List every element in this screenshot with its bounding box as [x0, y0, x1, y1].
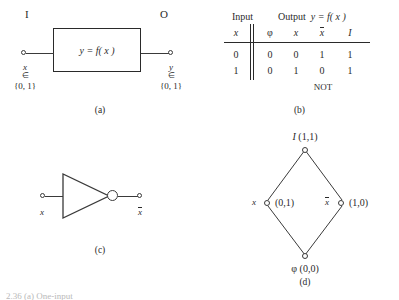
panel-a-input-domain: {0, 1} — [8, 81, 42, 91]
panel-b-group-header-output: Output y = f( x ) — [278, 12, 346, 22]
table-row-0-cell-1: 0 — [288, 50, 304, 60]
panel-c-output-label: x — [131, 207, 149, 217]
figure-bottom-caption-partial: 2.36 (a) One-input — [6, 292, 196, 300]
panel-d-caption: (d) — [275, 278, 335, 288]
panel-d-node-bottom — [302, 253, 308, 259]
panel-b-output-header-text: Output — [278, 11, 306, 22]
table-row-0-cell-0: 0 — [262, 50, 278, 60]
panel-c: x x (c) — [0, 140, 200, 300]
panel-d-node-top — [302, 147, 308, 153]
panel-a-output-member-symbol: ∈ — [154, 72, 188, 81]
panel-a-input-domain-label: x ∈ {0, 1} — [8, 62, 42, 91]
panel-a: I O y = f( x ) x ∈ {0, 1} y ∈ {0, 1} (a) — [0, 0, 200, 140]
panel-a-input-port-label: I — [25, 9, 29, 20]
panel-c-input-label: x — [33, 208, 51, 217]
panel-b-caption: (b) — [200, 106, 399, 116]
panel-d-x-bar-glyph: x — [325, 197, 329, 207]
table-row-0-cell-2: 1 — [314, 50, 330, 60]
table-row-1-input: 1 — [228, 66, 244, 76]
panel-b-group-header-input: Input — [232, 12, 253, 22]
panel-a-input-terminal — [21, 50, 26, 55]
panel-a-box-expression: y = f( x ) — [54, 46, 140, 56]
panel-b-col-header-x: x — [228, 28, 244, 38]
panel-b-x-bar-glyph: x — [320, 27, 324, 38]
panel-a-input-member-symbol: ∈ — [8, 72, 42, 81]
panel-b-col-header-x-bar: x — [314, 27, 330, 38]
panel-b-col-header-phi: φ — [262, 28, 278, 38]
table-row-0-cell-3: 1 — [342, 50, 358, 60]
panel-a-input-wire — [26, 53, 54, 54]
panel-d-node-left — [264, 200, 270, 206]
panel-d-node-bottom-label: φ (0,0) — [275, 264, 335, 274]
panel-a-output-domain: {0, 1} — [154, 81, 188, 91]
panel-b: Input Output y = f( x ) x φ x x I 0 0 0 … — [200, 0, 399, 140]
panel-b-col-header-x-identity: x — [288, 28, 304, 38]
panel-b-divider-rule-right — [253, 24, 254, 80]
panel-d-node-left-symbol: x — [252, 198, 256, 207]
panel-d-node-right-coords: (1,0) — [349, 198, 368, 208]
panel-a-output-port-label: O — [160, 9, 168, 20]
panel-c-caption: (c) — [0, 246, 200, 256]
panel-c-inversion-bubble — [107, 190, 118, 201]
panel-d: I (1,1) x (0,1) x (1,0) φ (0,0) (d) — [200, 130, 399, 300]
panel-d-edges — [200, 130, 399, 300]
panel-d-node-top-coords: (1,1) — [298, 131, 317, 142]
panel-c-output-terminal — [137, 193, 142, 198]
panel-b-function-note: NOT — [308, 83, 338, 92]
table-row-1-cell-1: 1 — [288, 66, 304, 76]
panel-c-output-wire — [118, 196, 138, 197]
panel-a-output-terminal — [168, 50, 173, 55]
panel-d-node-left-coords: (0,1) — [275, 198, 294, 208]
panel-b-divider-rule-left — [250, 24, 251, 80]
panel-b-output-header-expr: y = f( x ) — [308, 11, 346, 22]
panel-a-function-box: y = f( x ) — [53, 28, 141, 72]
panel-b-col-header-identity: I — [342, 28, 358, 38]
panel-d-node-top-symbol: I — [292, 131, 295, 142]
panel-a-output-wire — [141, 53, 169, 54]
table-row-1-cell-3: 1 — [342, 66, 358, 76]
panel-d-node-top-label: I (1,1) — [275, 132, 335, 142]
panel-d-node-right — [338, 200, 344, 206]
panel-a-caption: (a) — [0, 106, 200, 116]
panel-a-output-domain-label: y ∈ {0, 1} — [154, 62, 188, 91]
table-row-0-input: 0 — [228, 50, 244, 60]
panel-b-header-rule — [224, 42, 370, 43]
table-row-1-cell-0: 0 — [262, 66, 278, 76]
figure-page: I O y = f( x ) x ∈ {0, 1} y ∈ {0, 1} (a) — [0, 0, 399, 300]
panel-c-x-bar-glyph: x — [138, 207, 142, 217]
table-row-1-cell-2: 0 — [314, 66, 330, 76]
panel-d-node-right-symbol: x — [325, 197, 329, 207]
